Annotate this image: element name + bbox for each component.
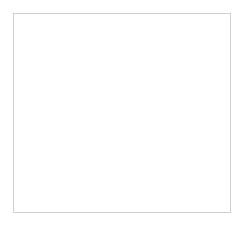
- legend-item-ph: [106, 191, 115, 203]
- legend: [0, 191, 242, 203]
- legend-item-average: [127, 191, 136, 203]
- legend-swatch-ph: [106, 194, 112, 200]
- legend-swatch-average: [127, 194, 133, 200]
- chart-frame: [13, 13, 231, 213]
